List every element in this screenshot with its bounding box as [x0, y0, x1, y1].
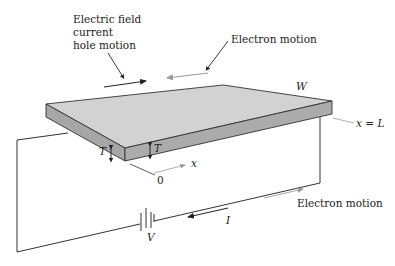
label-origin: 0	[157, 174, 164, 187]
diagram-graphics	[0, 0, 395, 266]
battery-icon	[141, 208, 154, 231]
label-electron-motion-bottom: Electron motion	[297, 197, 383, 210]
label-x-equals-l: x = L	[356, 117, 384, 130]
label-electron-motion-top: Electron motion	[231, 33, 317, 46]
label-hole-motion: hole motion	[73, 39, 136, 52]
label-current-i: I	[226, 214, 230, 227]
label-electric-field: Electric field	[73, 13, 141, 26]
label-x-axis: x	[191, 157, 197, 170]
slab	[46, 85, 332, 161]
label-voltage: V	[147, 231, 155, 244]
label-thickness-right: T	[154, 142, 161, 155]
label-thickness-left: T	[99, 145, 106, 158]
label-current: current	[73, 26, 113, 39]
label-width-w: W	[296, 80, 307, 93]
semiconductor-slab-diagram: Electric field current hole motion Elect…	[0, 0, 395, 266]
